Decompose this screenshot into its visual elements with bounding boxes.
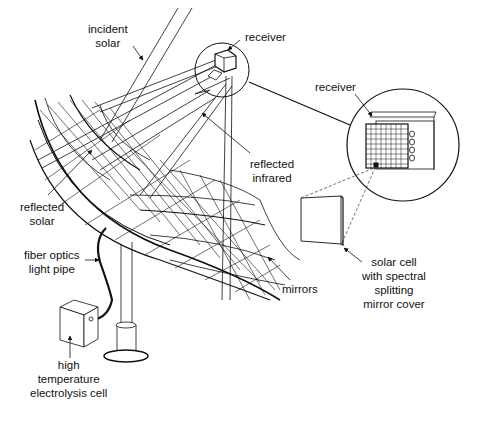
label-line: high	[30, 358, 107, 372]
label-line: with spectral	[362, 269, 426, 283]
label-line: splitting	[362, 283, 426, 297]
label-line: receiver	[245, 30, 286, 44]
electrolysis-cell	[60, 300, 98, 358]
label-electrolysis: high temperature electrolysis cell	[30, 358, 107, 400]
label-line: solar	[20, 214, 64, 228]
label-receiver-inset: receiver	[315, 80, 356, 94]
label-reflected-solar: reflected solar	[20, 200, 64, 228]
label-line: reflected	[20, 200, 64, 214]
label-line: mirrors	[282, 282, 318, 296]
label-reflected-infrared: reflected infrared	[250, 157, 294, 185]
label-receiver-small: receiver	[245, 30, 286, 44]
label-fiber-optics: fiber optics light pipe	[24, 248, 80, 276]
label-line: solar	[88, 36, 128, 50]
label-line: fiber optics	[24, 248, 80, 262]
label-line: electrolysis cell	[30, 386, 107, 400]
label-line: receiver	[315, 80, 356, 94]
label-line: mirror cover	[362, 297, 426, 311]
label-line: reflected	[250, 157, 294, 171]
label-solar-cell: solar cell with spectral splitting mirro…	[362, 255, 426, 311]
label-mirrors: mirrors	[282, 282, 318, 296]
label-line: incident	[88, 22, 128, 36]
label-line: temperature	[30, 372, 107, 386]
label-incident-solar: incident solar	[88, 22, 128, 50]
label-line: light pipe	[24, 262, 80, 276]
receiver-inset	[347, 89, 459, 201]
label-line: solar cell	[362, 255, 426, 269]
label-line: infrared	[250, 171, 294, 185]
